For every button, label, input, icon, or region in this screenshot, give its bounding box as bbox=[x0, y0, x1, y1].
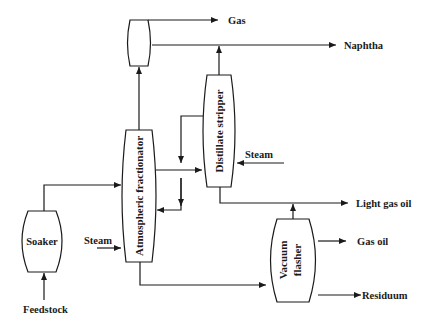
steam-fractionator-label: Steam bbox=[84, 235, 112, 246]
stripper-side-return bbox=[181, 116, 203, 163]
light-gas-oil-arrow bbox=[220, 187, 348, 203]
residuum-label: Residuum bbox=[362, 290, 408, 301]
process-flow-diagram: Atmospheric fractionator Distillate stri… bbox=[0, 0, 434, 328]
light-gas-oil-label: Light gas oil bbox=[356, 198, 412, 209]
soaker-to-fractionator-arrow bbox=[44, 185, 121, 211]
top-drum-vessel bbox=[128, 20, 151, 66]
soaker-label: Soaker bbox=[26, 236, 58, 247]
vacuum-flasher-label-1: Vacuum bbox=[277, 241, 289, 280]
return-to-fractionator-arrow bbox=[157, 178, 181, 210]
gas-label: Gas bbox=[228, 15, 246, 26]
feedstock-label: Feedstock bbox=[23, 304, 68, 315]
naphtha-label: Naphtha bbox=[344, 40, 384, 51]
gas-oil-label: Gas oil bbox=[357, 236, 388, 247]
atmospheric-fractionator-label: Atmospheric fractionator bbox=[133, 136, 145, 256]
distillate-stripper-label: Distillate stripper bbox=[213, 89, 225, 172]
vacuum-flasher-label-2: flasher bbox=[291, 244, 303, 277]
steam-stripper-label: Steam bbox=[245, 149, 273, 160]
fractionator-to-flasher-arrow bbox=[140, 262, 266, 285]
